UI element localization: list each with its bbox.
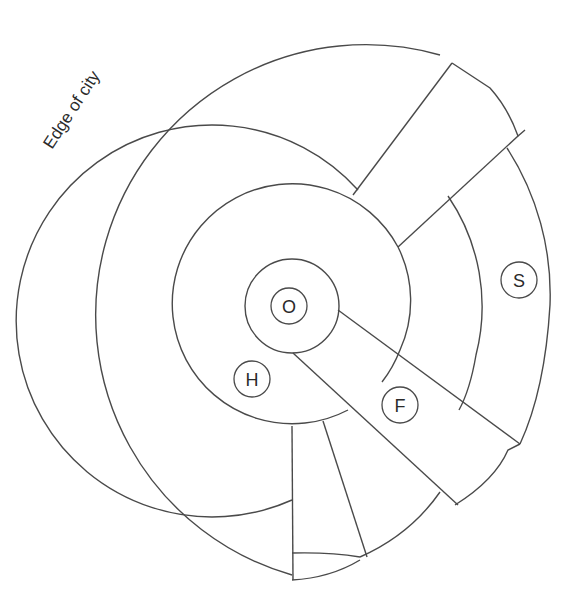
upper-wedge-left-edge bbox=[353, 63, 452, 195]
svg-text:F: F bbox=[395, 396, 406, 416]
f-sector-end-cap bbox=[455, 444, 520, 505]
ring-4-right bbox=[448, 196, 482, 410]
upper-wedge-right-edge bbox=[398, 136, 518, 247]
lower-sector-middle-arc bbox=[292, 553, 360, 557]
lower-sector-divider-1 bbox=[292, 426, 293, 580]
lower-sector-outer-arc bbox=[292, 560, 360, 580]
zone-s-label: S bbox=[501, 262, 537, 298]
ring-3-right bbox=[382, 247, 411, 382]
outer-ring-edge-of-city bbox=[96, 45, 440, 575]
upper-wedge-end-cap bbox=[452, 63, 525, 136]
svg-text:S: S bbox=[513, 271, 525, 291]
zone-o-label: O bbox=[271, 288, 307, 324]
edge-of-city-label: Edge of city bbox=[39, 67, 104, 152]
ring-4 bbox=[16, 125, 358, 517]
f-sector-upper-edge bbox=[338, 310, 520, 444]
f-sector-lower-edge bbox=[293, 353, 458, 505]
svg-text:H: H bbox=[246, 370, 259, 390]
zone-h-label: H bbox=[234, 361, 270, 397]
zone-f-label: F bbox=[382, 387, 418, 423]
svg-text:O: O bbox=[282, 297, 296, 317]
lower-sector-2-arc bbox=[360, 492, 440, 557]
lower-sector-divider-2 bbox=[323, 421, 367, 557]
city-model-diagram: O H F S Edge of city bbox=[0, 0, 586, 601]
